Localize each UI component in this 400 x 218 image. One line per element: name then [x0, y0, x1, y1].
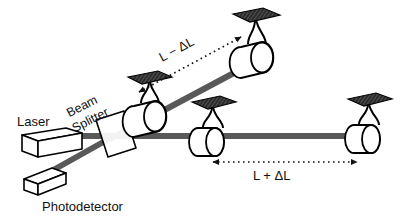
photodetector-label: Photodetector: [42, 199, 124, 214]
test-mass-face: [144, 102, 166, 132]
test-mass-face: [251, 43, 273, 73]
interferometer-diagram: Laser Photodetector Beam Splitter L − ΔL: [0, 0, 400, 218]
laser-label: Laser: [17, 114, 50, 129]
long-arm-label: L + ΔL: [253, 168, 290, 183]
test-mass-face: [362, 125, 380, 153]
test-mass-face: [206, 128, 224, 156]
